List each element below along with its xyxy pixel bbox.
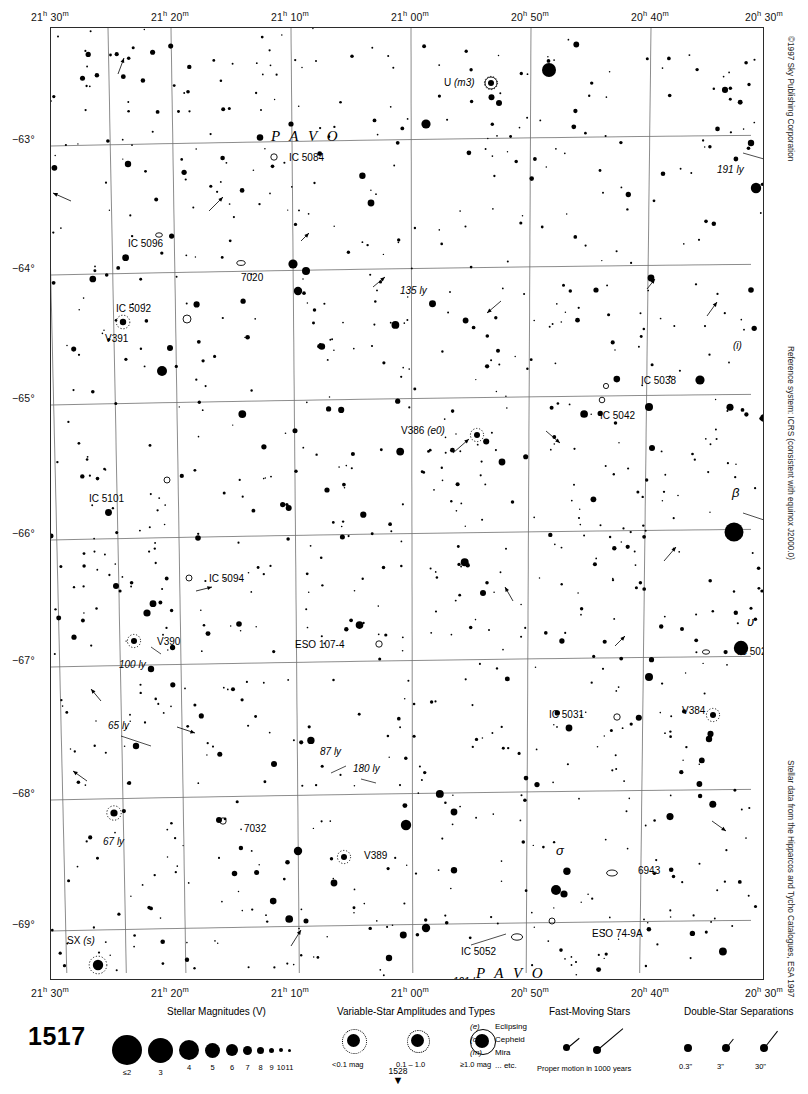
ra-tick-bottom-1: 21h 20m <box>151 985 189 999</box>
ra-tick-bottom-5: 20h 40m <box>631 985 669 999</box>
variable-type-code-0: (e) <box>470 1022 480 1031</box>
magnitude-label-≤2: ≤2 <box>123 1068 131 1077</box>
map-label-26: 67 ly <box>103 836 125 847</box>
variable-type-name-0: Eclipsing <box>495 1022 527 1031</box>
variable-ring-1 <box>407 1030 430 1053</box>
fast-moving-caption: Proper motion in 1000 years <box>537 1064 631 1073</box>
magnitude-dot-6 <box>226 1044 238 1056</box>
map-label-19: ESO 107-4 <box>295 639 345 650</box>
ra-tick-bottom-4: 20h 50m <box>511 985 549 999</box>
map-label-22: V384 <box>682 705 706 716</box>
double-star-dot-0 <box>684 1044 692 1052</box>
map-label-3: IC 5096 <box>128 238 163 249</box>
double-star-scale: 0.3"3"30" <box>684 1020 804 1080</box>
magnitude-dot-8 <box>257 1047 264 1054</box>
map-label-4: 7020 <box>241 272 264 283</box>
magnitude-scale: ≤234567891011 <box>112 1020 332 1080</box>
magnitude-dot-7 <box>243 1046 252 1055</box>
dec-tick-6: −69° <box>12 918 35 930</box>
double-star-label-2: 30" <box>755 1062 766 1071</box>
magnitude-label-11: 11 <box>286 1063 294 1072</box>
ra-tick-bottom-6: 20h 30m <box>745 985 783 999</box>
constellation-name: P A V O <box>475 965 546 979</box>
map-label-13: β <box>731 485 740 500</box>
map-label-0: U (m3) <box>444 77 475 88</box>
map-label-24: 87 ly <box>320 746 342 757</box>
magnitude-dot-3 <box>148 1038 173 1063</box>
map-label-30: 6943 <box>638 865 661 876</box>
sky-map-svg: U (m3)IC 5084191 lyIC 50967020135 lyIC 5… <box>51 28 763 979</box>
magnitude-label-7: 7 <box>245 1063 249 1072</box>
magnitude-label-3: 3 <box>158 1068 162 1077</box>
variable-type-name-1: Cepheid <box>495 1035 525 1044</box>
magnitude-dot-9 <box>269 1048 274 1053</box>
map-label-11: V386 (e0) <box>401 425 445 436</box>
magnitude-label-10: 10 <box>277 1063 285 1072</box>
magnitude-dot-10 <box>279 1048 283 1052</box>
map-label-1: IC 5084 <box>289 152 324 163</box>
legend-title-magnitudes: Stellar Magnitudes (V) <box>167 1006 266 1017</box>
map-label-28: V389 <box>364 850 388 861</box>
map-label-7: V391 <box>105 333 129 344</box>
ra-tick-top-6: 20h 30m <box>745 9 783 23</box>
map-label-12: IC 5101 <box>89 493 124 504</box>
variable-ring-0 <box>342 1029 367 1054</box>
next-page-marker: 1528 ▼ <box>389 1066 408 1086</box>
double-star-separation-line-2 <box>764 1031 778 1049</box>
ra-tick-top-0: 21h 30m <box>31 9 69 23</box>
map-label-29: σ <box>556 843 565 858</box>
ra-tick-bottom-2: 21h 10m <box>271 985 309 999</box>
proper-motion-arrow-0 <box>566 1038 579 1049</box>
map-label-15: IC 5094 <box>209 573 244 584</box>
map-label-27: 7032 <box>244 823 267 834</box>
variable-type-name-2: Mira <box>495 1048 511 1057</box>
dec-tick-1: −64° <box>12 262 35 274</box>
chart-number: 1517 <box>28 1022 86 1051</box>
map-label-32: IC 5052 <box>461 946 496 957</box>
constellation-name: P A V O <box>270 128 341 144</box>
variable-type-name-3: ... etc. <box>495 1061 517 1070</box>
map-label-16: υ <box>747 614 754 629</box>
map-label-33: SX (s) <box>67 935 95 946</box>
variable-type-code-2: (m) <box>470 1048 482 1057</box>
ra-tick-top-3: 21h 00m <box>391 9 429 23</box>
magnitude-label-5: 5 <box>210 1063 214 1072</box>
star-chart-plot-area[interactable]: U (m3)IC 5084191 lyIC 50967020135 lyIC 5… <box>50 27 764 980</box>
proper-motion-arrow-1 <box>597 1028 624 1051</box>
map-label-6: IC 5092 <box>116 303 151 314</box>
reference-system-note: Reference system: ICRS (consistent with … <box>786 346 795 560</box>
magnitude-label-6: 6 <box>230 1063 234 1072</box>
magnitude-dot-5 <box>205 1043 220 1058</box>
map-label-8: (i) <box>733 340 742 351</box>
copyright-note: ©1997 Sky Publishing Corporation <box>786 36 795 161</box>
ra-tick-top-2: 21h 10m <box>271 9 309 23</box>
map-label-23: 65 ly <box>108 720 130 731</box>
map-label-25: 180 ly <box>353 763 381 774</box>
magnitude-dot-4 <box>179 1040 199 1060</box>
ra-tick-top-1: 21h 20m <box>151 9 189 23</box>
fast-moving-sample: Proper motion in 1000 years <box>545 1020 695 1080</box>
dec-tick-2: −65° <box>12 392 35 404</box>
variable-label-0: <0.1 mag <box>332 1060 363 1069</box>
magnitude-dot-11 <box>288 1049 291 1052</box>
map-label-9: IC 5038 <box>641 375 676 386</box>
dec-tick-3: −66° <box>12 527 35 539</box>
map-label-20: IC 5023 <box>737 646 763 657</box>
ra-tick-bottom-0: 21h 30m <box>31 985 69 999</box>
magnitude-dot-≤2 <box>112 1035 142 1065</box>
map-label-17: V390 <box>157 636 181 647</box>
ra-tick-bottom-3: 21h 00m <box>391 985 429 999</box>
stellar-data-note: Stellar data from the Hipparcos and Tych… <box>786 760 795 997</box>
map-label-5: 135 ly <box>400 285 428 296</box>
ra-tick-top-4: 20h 50m <box>511 9 549 23</box>
ra-tick-top-5: 20h 40m <box>631 9 669 23</box>
magnitude-label-8: 8 <box>258 1063 262 1072</box>
legend-title-doubles: Double-Star Separations <box>684 1006 794 1017</box>
legend-title-variables: Variable-Star Amplitudes and Types <box>337 1006 495 1017</box>
down-arrow-icon: ▼ <box>393 1074 404 1086</box>
variable-type-code-1: (c) <box>470 1035 479 1044</box>
magnitude-label-9: 9 <box>269 1063 273 1072</box>
map-label-18: 100 ly <box>119 659 147 670</box>
dec-tick-0: −63° <box>12 133 35 145</box>
double-star-label-1: 3" <box>717 1062 724 1071</box>
